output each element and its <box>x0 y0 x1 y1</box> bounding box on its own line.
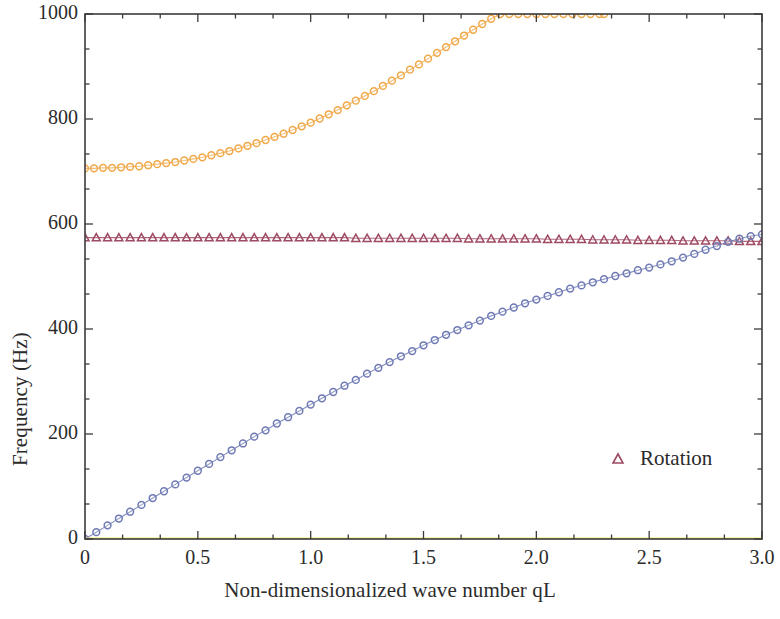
y-tick-label: 1000 <box>8 1 78 24</box>
y-tick-label: 600 <box>8 211 78 234</box>
x-tick-label: 2.0 <box>501 546 571 569</box>
x-tick-label: 0.5 <box>163 546 233 569</box>
x-tick-label: 1.0 <box>276 546 346 569</box>
y-tick-label: 0 <box>8 526 78 549</box>
x-tick-label: 2.5 <box>614 546 684 569</box>
x-tick-label: 3.0 <box>727 546 780 569</box>
y-axis-title: Frequency (Hz) <box>8 332 33 466</box>
chart-legend: Rotation <box>608 446 712 471</box>
legend-item-label: Rotation <box>640 446 712 471</box>
y-tick-label: 800 <box>8 106 78 129</box>
frequency-dispersion-chart: 00.51.01.52.02.53.0 02004006008001000 No… <box>0 0 780 619</box>
plot-canvas <box>0 0 780 619</box>
x-axis-title: Non-dimensionalized wave number qL <box>0 578 780 603</box>
x-tick-label: 0 <box>50 546 120 569</box>
legend-triangle-icon <box>608 449 628 469</box>
x-tick-label: 1.5 <box>389 546 459 569</box>
